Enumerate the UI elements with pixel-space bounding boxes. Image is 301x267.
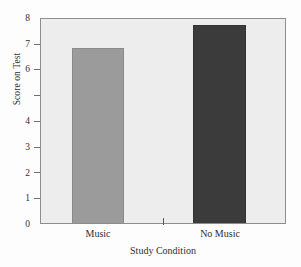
y-axis-tick-label-7: 7: [6, 39, 30, 49]
y-axis-tick-label-6: 6: [6, 64, 30, 74]
y-axis-tick-label-0: 0: [6, 219, 30, 229]
y-axis-tick-label-1: 1: [6, 193, 30, 203]
y-axis-tick-label-8: 8: [6, 13, 30, 23]
x-axis-title: Study Condition: [40, 245, 286, 256]
bar-chart-figure: Score on Test 8 7 6 4 3 2 1 0 Music No M…: [0, 0, 301, 267]
bar-no-music[interactable]: [193, 25, 246, 223]
x-axis-category-label-no-music: No Music: [178, 228, 262, 239]
bar-music[interactable]: [72, 48, 124, 223]
y-axis-tick-label-4: 4: [6, 116, 30, 126]
plot-area: [40, 18, 286, 224]
y-axis-tick-label-2: 2: [6, 168, 30, 178]
y-axis-tick-label-3: 3: [6, 142, 30, 152]
x-axis-center-tick: [163, 218, 164, 225]
x-axis-category-label-music: Music: [58, 228, 138, 239]
